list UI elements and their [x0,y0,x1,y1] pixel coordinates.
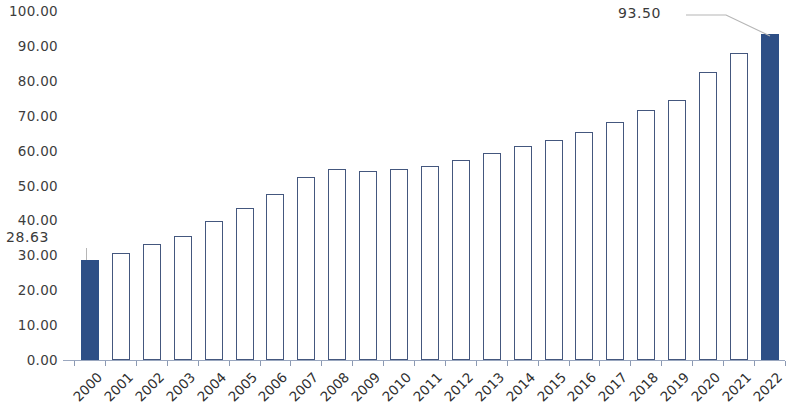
y-axis-tick-label: 50.00 [0,178,58,194]
bar-2020[interactable] [699,72,717,360]
y-axis-tick-label: 100.00 [0,3,58,19]
plot-area [63,0,791,413]
y-axis-tick-label: 0.00 [0,352,58,368]
bar-2011[interactable] [421,166,439,360]
bar-2009[interactable] [359,171,377,360]
bar-2000[interactable] [81,260,99,360]
x-axis-tick [599,361,600,366]
bar-2010[interactable] [390,169,408,360]
x-axis-tick [723,361,724,366]
y-axis-tick-label: 30.00 [0,247,58,263]
x-axis-tick [538,361,539,366]
bar-2019[interactable] [668,100,686,360]
y-axis-tick-label: 40.00 [0,212,58,228]
y-axis-tick-label: 80.00 [0,73,58,89]
x-axis-tick [321,361,322,366]
x-axis-tick [136,361,137,366]
x-axis-tick [167,361,168,366]
x-axis-tick [630,361,631,366]
bar-2016[interactable] [575,132,593,360]
x-axis-tick [414,361,415,366]
x-axis-tick [352,361,353,366]
x-axis-tick [569,361,570,366]
y-axis-tick-label: 10.00 [0,317,58,333]
bar-2013[interactable] [483,153,501,360]
bar-2022[interactable] [761,34,779,360]
bar-2018[interactable] [637,110,655,360]
x-axis-tick [290,361,291,366]
x-axis-tick [229,361,230,366]
bar-2007[interactable] [297,177,315,360]
bar-2017[interactable] [606,122,624,360]
x-axis-tick [754,361,755,366]
x-axis-tick [105,361,106,366]
bar-2001[interactable] [112,253,130,360]
bar-2006[interactable] [266,194,284,360]
x-axis-tick [476,361,477,366]
data-label-first: 28.63 [6,229,49,245]
bar-2021[interactable] [730,53,748,360]
x-axis-baseline [63,360,785,361]
data-label-leader-line-last [686,11,772,37]
bar-2004[interactable] [205,221,223,360]
x-axis-tick [198,361,199,366]
bar-2015[interactable] [545,140,563,360]
x-axis-tick [692,361,693,366]
x-axis-tick [383,361,384,366]
x-axis-tick [445,361,446,366]
y-axis: 0.0010.0020.0030.0040.0050.0060.0070.008… [0,0,58,413]
bar-2014[interactable] [514,146,532,360]
x-axis-tick [74,361,75,366]
data-label-last: 93.50 [618,5,661,21]
x-axis-tick [661,361,662,366]
bar-2008[interactable] [328,169,346,360]
x-axis-tick [507,361,508,366]
bar-2002[interactable] [143,244,161,360]
y-axis-tick-label: 20.00 [0,282,58,298]
bar-2003[interactable] [174,236,192,360]
bar-2012[interactable] [452,160,470,360]
data-label-leader-line-first [86,248,87,260]
x-axis-tick [260,361,261,366]
y-axis-tick-label: 60.00 [0,143,58,159]
y-axis-tick-label: 70.00 [0,108,58,124]
x-axis-tick [785,361,786,366]
bar-chart: 0.0010.0020.0030.0040.0050.0060.0070.008… [0,0,791,413]
y-axis-tick-label: 90.00 [0,38,58,54]
bar-2005[interactable] [236,208,254,360]
